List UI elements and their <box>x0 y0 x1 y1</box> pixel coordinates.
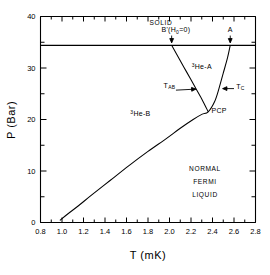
phase-diagram-figure: 0.81.01.21.41.61.82.02.22.42.62.80102030… <box>0 0 270 275</box>
x-tick-label: 2.2 <box>186 227 196 236</box>
x-tick-label: 2.4 <box>207 227 217 236</box>
he3-b-region-label: 3He-B <box>130 109 150 117</box>
y-tick-label: 10 <box>27 167 35 176</box>
x-tick-label: 1.2 <box>78 227 88 236</box>
x-tick-label: 2.0 <box>164 227 174 236</box>
y-axis-title: P (Bar) <box>5 101 17 139</box>
x-tick-label: 2.6 <box>229 227 239 236</box>
he3-a-region-label: 3He-A <box>192 62 212 70</box>
annotation-text: FERMI <box>193 178 217 185</box>
x-tick-label: 1.8 <box>143 227 153 236</box>
annotation-text: PCP <box>211 107 226 114</box>
x-tick-label: 1.6 <box>121 227 131 236</box>
y-tick-label: 30 <box>27 64 35 73</box>
y-tick-label: 0 <box>31 218 35 227</box>
annotation-text: SOLID <box>150 19 173 26</box>
annotation-text: NORMAL <box>189 165 221 172</box>
x-tick-label: 1.4 <box>100 227 110 236</box>
annotation-text: A <box>228 26 233 33</box>
phase-diagram-svg: 0.81.01.21.41.61.82.02.22.42.62.80102030… <box>0 0 270 275</box>
annotation-text: LIQUID <box>192 191 218 199</box>
y-tick-label: 20 <box>27 115 35 124</box>
x-tick-label: 0.8 <box>35 227 45 236</box>
x-tick-label: 2.8 <box>250 227 260 236</box>
x-axis-title: T (mK) <box>130 249 166 261</box>
x-tick-label: 1.0 <box>57 227 67 236</box>
y-tick-label: 40 <box>27 12 35 21</box>
